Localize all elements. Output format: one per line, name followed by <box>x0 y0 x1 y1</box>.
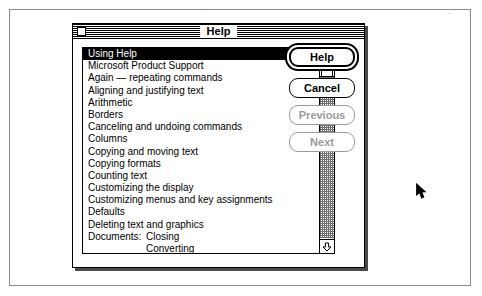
list-item[interactable]: Using Help <box>83 48 319 60</box>
list-item[interactable]: Columns <box>83 133 319 145</box>
cancel-button[interactable]: Cancel <box>289 78 355 98</box>
next-button: Next <box>289 132 355 152</box>
list-item[interactable]: Copying and moving text <box>83 146 319 158</box>
scroll-down-arrow-icon[interactable] <box>320 239 334 253</box>
list-item-label: Deleting text and graphics <box>88 219 204 230</box>
list-item-label: Defaults <box>88 206 125 217</box>
scan-artifact: ... <box>447 9 459 16</box>
list-item-label: Canceling and undoing commands <box>88 121 242 132</box>
list-item[interactable]: Documents:Closing <box>83 231 319 243</box>
dialog-button-column: HelpCancelPreviousNext <box>289 47 355 159</box>
list-item[interactable]: Microsoft Product Support <box>83 60 319 72</box>
list-item[interactable]: Customizing the display <box>83 182 319 194</box>
window-title-bar[interactable]: Help <box>73 24 364 39</box>
list-item-label: Counting text <box>88 170 147 181</box>
previous-button: Previous <box>289 105 355 125</box>
window-title: Help <box>200 25 238 38</box>
list-item[interactable]: Arithmetic <box>83 97 319 109</box>
list-item[interactable]: Copying formats <box>83 158 319 170</box>
list-item[interactable]: Counting text <box>83 170 319 182</box>
list-item-label: Closing <box>146 231 179 242</box>
list-item-label: Microsoft Product Support <box>88 60 204 71</box>
close-box-icon[interactable] <box>77 27 86 36</box>
list-item-label: Columns <box>88 133 127 144</box>
list-item[interactable]: Defaults <box>83 206 319 218</box>
help-window: Help Using HelpMicrosoft Product Support… <box>72 23 365 268</box>
list-item-label: Using Help <box>88 48 137 59</box>
list-item-label: Aligning and justifying text <box>88 85 204 96</box>
list-item-label: Customizing the display <box>88 182 194 193</box>
list-item-group-label: Documents: <box>88 231 146 243</box>
list-item-label: Converting <box>146 243 194 253</box>
window-body: Using HelpMicrosoft Product SupportAgain… <box>73 39 364 267</box>
list-item[interactable]: Canceling and undoing commands <box>83 121 319 133</box>
list-item[interactable]: Converting <box>83 243 319 253</box>
list-item[interactable]: Deleting text and graphics <box>83 219 319 231</box>
list-item-label: Borders <box>88 109 123 120</box>
list-item[interactable]: Again — repeating commands <box>83 72 319 84</box>
list-item-label: Customizing menus and key assignments <box>88 194 273 205</box>
list-item[interactable]: Aligning and justifying text <box>83 85 319 97</box>
help-button[interactable]: Help <box>289 47 355 67</box>
list-item[interactable]: Borders <box>83 109 319 121</box>
list-item[interactable]: Customizing menus and key assignments <box>83 194 319 206</box>
list-item-label: Again — repeating commands <box>88 72 223 83</box>
list-item-label: Copying formats <box>88 158 161 169</box>
help-topics-list[interactable]: Using HelpMicrosoft Product SupportAgain… <box>83 48 319 253</box>
list-item-label: Arithmetic <box>88 97 132 108</box>
list-item-label: Copying and moving text <box>88 146 198 157</box>
